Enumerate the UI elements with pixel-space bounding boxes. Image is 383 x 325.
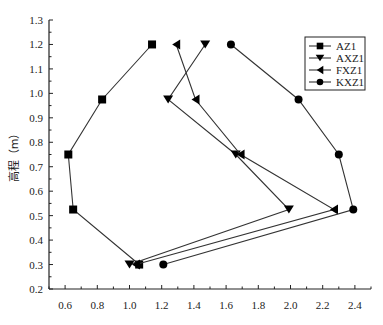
circle-marker-icon: [159, 261, 167, 269]
x-tick-label: 1.0: [123, 299, 137, 311]
series-line: [130, 45, 289, 265]
y-tick-label: 0.9: [29, 112, 43, 124]
circle-marker-icon: [349, 206, 357, 214]
series-az1: [64, 40, 156, 268]
x-tick-label: 1.2: [155, 299, 169, 311]
legend-label: KXZ1: [336, 76, 364, 88]
y-tick-label: 1.3: [29, 14, 43, 26]
legend-label: FXZ1: [336, 64, 362, 76]
legend: AZ1AXZ1FXZ1KXZ1: [305, 37, 365, 90]
y-tick-label: 0.6: [29, 185, 43, 197]
legend-label: AXZ1: [336, 52, 364, 64]
square-marker-icon: [317, 43, 324, 50]
triangle-down-marker-icon: [284, 206, 294, 214]
x-tick-label: 0.6: [58, 299, 72, 311]
x-tick-label: 0.8: [90, 299, 104, 311]
y-tick-label: 0.3: [29, 259, 43, 271]
y-tick-label: 1.0: [29, 87, 43, 99]
triangle-left-marker-icon: [172, 39, 180, 49]
y-axis-label: 高程（m）: [7, 128, 21, 183]
y-tick-label: 0.5: [29, 210, 43, 222]
y-tick-label: 0.8: [29, 136, 43, 148]
x-tick-label: 1.4: [187, 299, 201, 311]
square-marker-icon: [64, 151, 72, 159]
triangle-down-marker-icon: [200, 40, 210, 48]
y-tick-label: 0.4: [29, 234, 43, 246]
square-marker-icon: [98, 95, 106, 103]
x-tick-label: 1.6: [219, 299, 233, 311]
square-marker-icon: [148, 40, 156, 48]
square-marker-icon: [69, 206, 77, 214]
x-tick-label: 2.0: [284, 299, 298, 311]
circle-marker-icon: [295, 95, 303, 103]
x-tick-label: 2.4: [348, 299, 362, 311]
chart: 0.20.30.40.50.60.70.80.91.01.11.21.30.60…: [0, 0, 383, 325]
y-tick-label: 1.1: [29, 63, 43, 75]
y-tick-label: 0.7: [29, 161, 43, 173]
y-tick-label: 1.2: [29, 38, 43, 50]
series-line: [68, 45, 152, 265]
circle-marker-icon: [227, 40, 235, 48]
y-tick-label: 0.2: [29, 283, 43, 295]
circle-marker-icon: [317, 79, 324, 86]
legend-label: AZ1: [336, 40, 356, 52]
x-tick-label: 2.2: [316, 299, 330, 311]
circle-marker-icon: [335, 151, 343, 159]
triangle-left-marker-icon: [192, 94, 200, 104]
x-tick-label: 1.8: [251, 299, 265, 311]
triangle-left-marker-icon: [330, 205, 338, 215]
